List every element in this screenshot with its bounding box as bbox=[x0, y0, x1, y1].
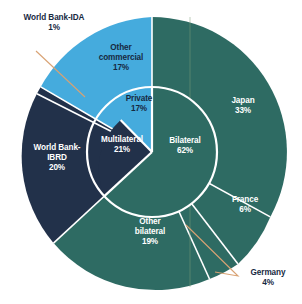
label-other-commercial-line2: commercial bbox=[99, 53, 144, 62]
label-private-line1: Private bbox=[126, 94, 153, 103]
label-germany: Germany 4% bbox=[251, 268, 286, 287]
label-ida-line1: World Bank-IDA bbox=[24, 13, 85, 22]
label-other-commercial-line3: 17% bbox=[113, 63, 130, 72]
label-bilateral-line1: Bilateral bbox=[169, 136, 200, 145]
label-france-line2: 6% bbox=[239, 205, 251, 214]
label-world-bank-ida: World Bank-IDA 1% bbox=[24, 13, 85, 32]
nested-donut-chart: Japan 33% France 6% Germany 4% Other bil… bbox=[0, 0, 302, 304]
label-other-bilateral-line2: bilateral bbox=[135, 227, 166, 236]
label-germany-line1: Germany bbox=[251, 268, 286, 277]
label-ibrd-line3: 20% bbox=[49, 163, 66, 172]
label-ida-line2: 1% bbox=[48, 23, 60, 32]
label-japan-line2: 33% bbox=[235, 106, 252, 115]
label-multilateral-line1: Multilateral bbox=[101, 135, 143, 144]
label-france-line1: France bbox=[232, 195, 259, 204]
label-multilateral-line2: 21% bbox=[114, 145, 131, 154]
label-ibrd-line1: World Bank- bbox=[34, 143, 81, 152]
label-other-commercial-line1: Other bbox=[110, 43, 132, 52]
label-bilateral-line2: 62% bbox=[177, 146, 194, 155]
pie-chart-figure: Japan 33% France 6% Germany 4% Other bil… bbox=[0, 0, 302, 304]
label-germany-line2: 4% bbox=[262, 278, 274, 287]
label-japan-line1: Japan bbox=[231, 96, 254, 105]
label-ibrd-line2: IBRD bbox=[47, 153, 67, 162]
label-private-line2: 17% bbox=[131, 104, 148, 113]
label-other-bilateral-line1: Other bbox=[139, 217, 161, 226]
label-other-bilateral-line3: 19% bbox=[142, 237, 159, 246]
